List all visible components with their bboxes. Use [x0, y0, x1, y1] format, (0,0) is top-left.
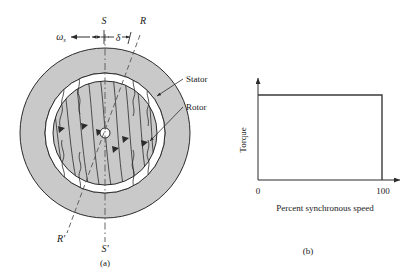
axis-label-s-top: S	[102, 15, 107, 26]
axis-label-r-bottom: R'	[56, 233, 66, 244]
axis-label-r-top: R	[139, 15, 146, 26]
omega-subscript: s	[63, 36, 66, 43]
panel-b-caption: (b)	[303, 246, 314, 256]
torque-angle-dimension	[92, 30, 131, 44]
delta-label: δ	[116, 32, 121, 43]
figure-svg: Stator Rotor S S' R R' ωs δ (a)	[0, 0, 417, 279]
panel-a-group: Stator Rotor S S' R R' ωs δ (a)	[20, 15, 208, 268]
torque-curve	[258, 95, 382, 180]
stator-label: Stator	[186, 74, 208, 84]
rotor-label: Rotor	[186, 102, 207, 112]
panel-a-caption: (a)	[100, 258, 110, 268]
omega-s-label: ωs	[56, 31, 66, 43]
y-axis-title: Torque	[238, 127, 248, 152]
panel-b-group: 0 100 Percent synchronous speed Torque (…	[238, 78, 400, 256]
axis-label-s-bottom: S'	[101, 243, 109, 254]
figure-root: Stator Rotor S S' R R' ωs δ (a)	[0, 0, 417, 279]
x-tick-label-100: 100	[376, 186, 390, 196]
omega-symbol: ω	[56, 31, 63, 42]
x-axis-title: Percent synchronous speed	[276, 203, 374, 213]
x-tick-label-0: 0	[256, 186, 261, 196]
